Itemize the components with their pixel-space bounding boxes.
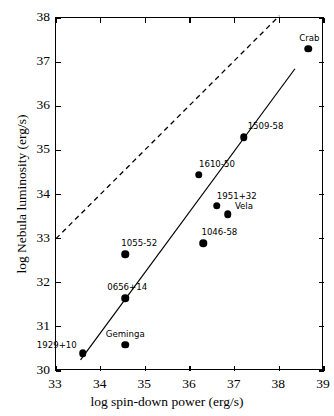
x-axis-tick	[55, 366, 56, 371]
x-axis-tick	[189, 18, 190, 23]
figure-scatter-plot: log Nebula luminosity (erg/s) log spin-d…	[0, 0, 334, 416]
y-axis-tick	[319, 282, 324, 283]
y-axis-tick	[319, 150, 324, 151]
y-axis-tick-label: 33	[10, 231, 50, 245]
y-axis-tick	[56, 17, 61, 18]
x-axis-tick	[100, 18, 101, 23]
data-point-label: 0656+14	[107, 283, 147, 292]
x-axis-tick-label: 39	[303, 377, 334, 391]
data-point	[121, 250, 129, 258]
x-axis-tick-label: 35	[124, 377, 164, 391]
y-axis-tick-label: 37	[10, 54, 50, 68]
y-axis-tick-label: 38	[10, 10, 50, 24]
data-point	[305, 45, 313, 53]
y-axis-tick	[56, 238, 61, 239]
y-axis-tick-label: 30	[10, 363, 50, 377]
x-axis-tick	[279, 366, 280, 371]
x-axis-tick	[145, 18, 146, 23]
x-axis-tick	[145, 366, 146, 371]
fit-line	[81, 69, 295, 360]
x-axis-tick-label: 33	[35, 377, 75, 391]
y-axis-tick-label: 31	[10, 319, 50, 333]
data-point	[121, 294, 129, 302]
y-axis-tick-label: 35	[10, 142, 50, 156]
y-axis-tick	[319, 106, 324, 107]
data-point	[200, 239, 208, 247]
data-point-label: Crab	[299, 33, 319, 42]
data-point	[195, 171, 203, 179]
plot-area: 1929+10Geminga0656+141055-521046-58Vela1…	[55, 17, 323, 370]
y-axis-tick	[319, 326, 324, 327]
x-axis-tick	[234, 366, 235, 371]
y-axis-tick	[56, 150, 61, 151]
y-axis-tick	[319, 238, 324, 239]
data-point-label: 1929+10	[37, 341, 77, 350]
data-point	[224, 211, 232, 219]
x-axis-tick-label: 37	[214, 377, 254, 391]
y-axis-tick-label: 32	[10, 275, 50, 289]
x-axis-tick-label: 36	[169, 377, 209, 391]
x-axis-tick-label: 38	[258, 377, 298, 391]
y-axis-tick	[56, 62, 61, 63]
y-axis-tick-label: 36	[10, 98, 50, 112]
x-axis-tick	[323, 366, 324, 371]
x-axis-tick	[279, 18, 280, 23]
y-axis-tick	[56, 282, 61, 283]
x-axis-tick	[100, 366, 101, 371]
x-axis-title: log spin-down power (erg/s)	[0, 394, 334, 410]
y-axis-tick-label: 34	[10, 187, 50, 201]
y-axis-tick	[56, 326, 61, 327]
x-axis-tick	[234, 18, 235, 23]
data-point	[213, 202, 221, 210]
plot-lines-layer	[56, 18, 324, 371]
x-axis-tick-label: 34	[80, 377, 120, 391]
trend-lines	[56, 16, 295, 360]
data-point-label: 1055-52	[121, 239, 157, 248]
data-point	[240, 133, 248, 141]
x-axis-tick	[55, 18, 56, 23]
y-axis-tick	[56, 106, 61, 107]
data-point-label: Geminga	[106, 329, 145, 338]
y-axis-tick	[56, 370, 61, 371]
y-axis-tick	[56, 194, 61, 195]
data-point-label: Vela	[235, 202, 253, 211]
y-axis-tick	[319, 194, 324, 195]
y-axis-tick	[319, 62, 324, 63]
data-point	[121, 341, 129, 349]
data-point-label: 1610-50	[199, 159, 235, 168]
data-point-label: 1046-58	[201, 228, 237, 237]
x-axis-tick	[323, 18, 324, 23]
x-axis-tick	[189, 366, 190, 371]
data-point-label: 1951+32	[217, 191, 257, 200]
data-point-label: 1509-58	[248, 122, 284, 131]
data-point	[79, 350, 87, 358]
